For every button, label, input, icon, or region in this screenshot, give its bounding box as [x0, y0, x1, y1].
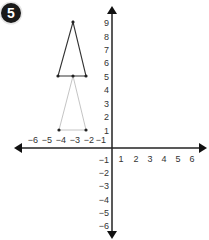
svg-text:−4: −4: [99, 195, 109, 205]
point-neg3-9: [71, 20, 74, 23]
point-neg4-1: [57, 128, 60, 131]
svg-text:7: 7: [104, 45, 109, 55]
point-neg2-5: [84, 74, 87, 77]
svg-text:−5: −5: [42, 135, 52, 145]
svg-text:−2: −2: [84, 135, 94, 145]
svg-text:2: 2: [104, 112, 109, 122]
svg-text:−6: −6: [99, 221, 109, 231]
y-tick-labels-negative: −1 −2 −3 −4 −5 −6: [99, 155, 109, 231]
svg-text:−6: −6: [28, 135, 38, 145]
arrow-up-icon: [107, 6, 117, 14]
svg-text:−1: −1: [99, 155, 109, 165]
point-neg4-5: [56, 74, 59, 77]
graph-canvas: −6 −5 −4 −3 −2 −1 1 2 3 4 5 6 9 8 7 6 5 …: [0, 0, 209, 240]
svg-text:9: 9: [104, 18, 109, 28]
svg-text:5: 5: [175, 154, 180, 164]
svg-text:4: 4: [161, 154, 166, 164]
svg-text:−4: −4: [56, 135, 66, 145]
svg-text:6: 6: [189, 154, 194, 164]
coordinate-graph: 5 −6 −5 −4 −3 −2 −1 1 2 3 4 5 6: [0, 0, 209, 240]
svg-text:1: 1: [118, 154, 123, 164]
svg-text:4: 4: [104, 85, 109, 95]
x-tick-labels-negative: −6 −5 −4 −3 −2 −1: [28, 135, 106, 145]
arrow-left-icon: [14, 143, 22, 153]
point-neg2-1: [84, 128, 87, 131]
y-tick-labels-positive: 9 8 7 6 5 4 3 2 1: [104, 18, 109, 136]
upper-triangle: [56, 20, 87, 77]
lower-triangle: [57, 76, 87, 132]
svg-text:−3: −3: [70, 135, 80, 145]
svg-text:1: 1: [104, 126, 109, 136]
point-neg3-5: [71, 74, 74, 77]
svg-text:2: 2: [133, 154, 138, 164]
arrow-down-icon: [107, 231, 117, 239]
svg-text:−1: −1: [96, 135, 106, 145]
svg-text:3: 3: [147, 154, 152, 164]
svg-text:5: 5: [104, 72, 109, 82]
svg-text:−3: −3: [99, 181, 109, 191]
svg-text:6: 6: [104, 58, 109, 68]
svg-text:3: 3: [104, 99, 109, 109]
svg-text:−5: −5: [99, 208, 109, 218]
x-tick-labels-positive: 1 2 3 4 5 6: [118, 154, 194, 164]
arrow-right-icon: [199, 143, 207, 153]
svg-text:−2: −2: [99, 168, 109, 178]
svg-text:8: 8: [104, 32, 109, 42]
